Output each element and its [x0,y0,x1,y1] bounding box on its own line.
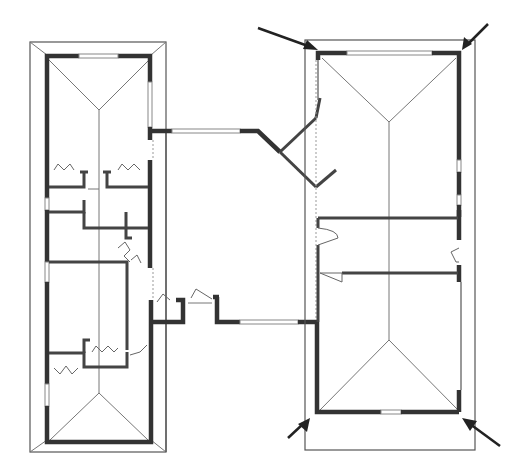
door-swing-icon [92,346,118,352]
window [457,160,461,172]
right-hip-line [322,58,389,122]
right-wing-wall-top-right [432,53,459,160]
door-swing-icon [318,228,338,245]
window [148,82,152,127]
window [381,410,401,414]
window [347,51,432,55]
left-hip-line [47,58,99,110]
angled-wall [280,118,316,152]
door-swing-icon [118,164,140,170]
right-wing [305,40,475,450]
left-wing-wall-top-right [118,56,150,82]
partition-wall [49,200,84,212]
window [45,198,49,210]
door-swing-icon [54,366,78,374]
partition-wall [49,352,127,367]
arrow-top-right-icon [468,24,488,44]
left-wing-roof-outline [30,42,166,452]
left-wing [30,42,166,452]
window [457,195,461,205]
central-courtyard-passage [150,98,336,452]
door-swing-icon [130,345,147,355]
partition-wall [126,212,132,238]
door-swing-icon [157,294,170,302]
window [45,384,49,406]
floor-plan [0,0,518,475]
window [45,262,49,282]
door-swing-icon [54,164,74,170]
arrow-top-left-icon [258,28,308,46]
passage-wall-bottom [151,300,183,322]
left-wing-wall-top-left [47,56,79,198]
corner-arrows [258,24,500,446]
passage-wall-angled [240,131,280,152]
window [79,54,118,58]
door-swing-icon [191,289,212,299]
door-swing-icon [118,242,130,262]
right-wing-roof-outline [305,40,475,450]
door-swing-icon [320,273,342,282]
partition-wall [49,262,127,350]
partition-wall [49,172,84,187]
window [240,320,298,324]
right-wing-wall-bottom [317,322,381,412]
window [172,129,240,133]
partition-wall [107,172,148,187]
door-swing-icon [451,248,459,262]
